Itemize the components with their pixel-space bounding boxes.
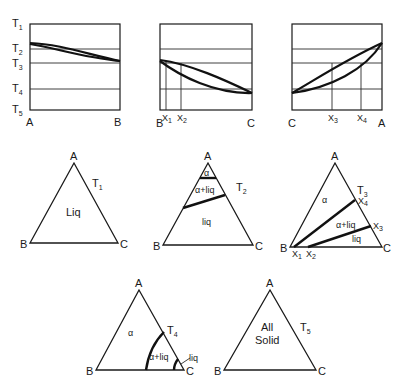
vertex-label-b: B <box>280 242 287 254</box>
liquidus-curve <box>160 60 252 93</box>
marker-x3: X3 <box>328 113 338 124</box>
temp-label-t3: T3 <box>12 57 23 71</box>
marker-x1: X1 <box>162 113 172 124</box>
temp-label-t4: T4 <box>12 82 23 96</box>
region-label-alpha-liquid: α+liq <box>336 220 355 230</box>
region-label-liquid: liq <box>352 234 361 244</box>
temp-label: T5 <box>300 321 311 335</box>
vertex-label-a: A <box>70 150 78 162</box>
region-label-alpha: α <box>322 195 327 205</box>
vertex-label-a: A <box>266 277 274 289</box>
liquidus-boundary <box>174 359 178 370</box>
region-label-all: All <box>261 321 273 333</box>
binary-diagram-c-a: C A X3 X4 <box>288 24 386 129</box>
ternary-section-t3: A B C T3 α α+liq liq X4 X3 X1 X2 <box>280 150 391 260</box>
temp-label: T1 <box>92 177 103 191</box>
composition-triangle <box>30 163 118 243</box>
phase-diagram-figure: T1 T2 T3 T4 T5 A B B C X1 X2 C A X3 X4 <box>0 0 408 392</box>
vertex-label-a: A <box>135 277 143 289</box>
ternary-section-t5: A B C T5 All Solid <box>214 277 326 377</box>
vertex-label-c: C <box>120 238 128 250</box>
vertex-label-c: C <box>255 240 263 252</box>
vertex-label-b: B <box>153 240 160 252</box>
axis-label-right: C <box>247 117 255 129</box>
region-label-alpha: α <box>204 168 209 178</box>
alpha-boundary <box>146 332 164 370</box>
vertex-label-c: C <box>186 365 194 377</box>
region-label-liquid: liq <box>202 217 211 227</box>
axis-label-left: C <box>288 117 296 129</box>
marker-x1: X1 <box>292 249 302 260</box>
region-label-liquid: liq <box>189 353 198 363</box>
marker-x2: X2 <box>306 249 316 260</box>
axis-label-left: A <box>26 116 34 128</box>
binary-diagram-a-b: T1 T2 T3 T4 T5 A B <box>12 17 121 128</box>
temp-label-t5: T5 <box>12 103 23 117</box>
region-label-alpha-liquid: α+liq <box>149 352 168 362</box>
ternary-section-t1: A B C T1 Liq <box>20 150 128 250</box>
ternary-section-t4: A B C T4 α α+liq liq <box>86 277 198 377</box>
axis-label-right: A <box>378 117 386 129</box>
marker-x4: X4 <box>357 113 367 124</box>
marker-x2: X2 <box>177 113 187 124</box>
temp-label: T2 <box>236 181 247 195</box>
vertex-label-b: B <box>20 238 27 250</box>
liquidus-curve <box>292 43 382 93</box>
binary-diagram-b-c: B C X1 X2 <box>156 24 255 129</box>
temp-label-t2: T2 <box>12 42 23 56</box>
vertex-label-c: C <box>318 365 326 377</box>
temp-label-t1: T1 <box>12 17 23 31</box>
vertex-label-b: B <box>86 365 93 377</box>
axis-label-right: B <box>114 116 121 128</box>
region-label-solid: Solid <box>255 334 279 346</box>
vertex-label-b: B <box>214 365 221 377</box>
vertex-label-a: A <box>204 150 212 162</box>
diagram-frame <box>30 24 120 110</box>
region-label-liquid: Liq <box>66 206 81 218</box>
vertex-label-a: A <box>331 150 339 162</box>
region-label-alpha-liquid: α+liq <box>195 185 214 195</box>
ternary-section-t2: A B C T2 α α+liq liq <box>153 150 263 252</box>
region-label-alpha: α <box>128 328 133 338</box>
composition-triangle <box>290 163 382 247</box>
marker-x3: X3 <box>373 221 383 232</box>
vertex-label-c: C <box>383 242 391 254</box>
temp-label: T4 <box>167 324 178 338</box>
solidus-curve <box>30 44 120 61</box>
diagram-frame <box>160 24 252 110</box>
solidus-curve <box>160 61 252 93</box>
